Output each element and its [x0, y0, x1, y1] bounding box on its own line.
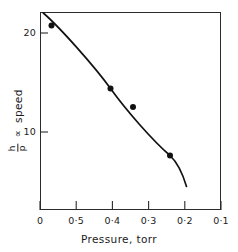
data-point: [108, 86, 114, 92]
x-tick-label-3: 0·3: [141, 216, 157, 226]
y-axis-label-fraction: h p: [8, 144, 27, 152]
chart-figure: 0 0·5 0·4 0·3 0·2 0·1 20 10 Pressure, to…: [0, 0, 238, 252]
y-axis-ticks: [40, 33, 48, 132]
data-point: [130, 104, 136, 110]
data-point: [49, 23, 55, 29]
data-markers: [49, 23, 174, 159]
x-tick-label-0: 0: [37, 216, 43, 226]
x-tick-label-5: 0·1: [213, 216, 229, 226]
data-point: [167, 153, 173, 159]
y-tick-label-20: 20: [18, 28, 36, 38]
x-tick-label-1: 0·5: [68, 216, 84, 226]
data-curve: [43, 13, 186, 187]
y-axis-label-numerator: h: [8, 144, 17, 152]
y-axis-label-word: speed: [12, 89, 24, 123]
x-axis-label: Pressure, torr: [0, 233, 238, 245]
x-axis-ticks: [40, 201, 221, 210]
x-tick-label-2: 0·4: [105, 216, 121, 226]
x-tick-label-4: 0·2: [177, 216, 193, 226]
y-axis-label: h p ∝ speed: [8, 61, 27, 181]
proportional-to-symbol: ∝: [13, 127, 24, 141]
y-axis-label-denominator: p: [17, 144, 27, 152]
